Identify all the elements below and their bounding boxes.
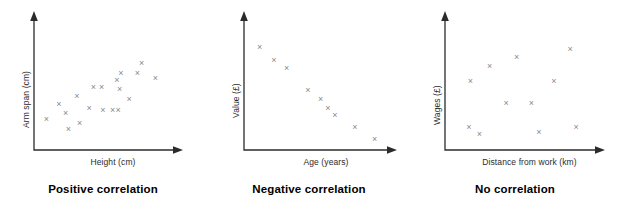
data-points-none: ××××××××××× xyxy=(466,44,579,139)
data-point-marker: × xyxy=(536,127,541,137)
data-point-marker: × xyxy=(74,91,79,101)
chart-panel-positive: ××××××××××××××××××× Arm span (cm) Height… xyxy=(0,0,206,209)
x-axis-arrow-icon xyxy=(173,146,183,154)
data-points-negative: ××××××××× xyxy=(257,42,377,144)
plot-svg-none: ××××××××××× xyxy=(412,0,618,180)
axes-positive xyxy=(30,11,183,154)
axes-negative xyxy=(240,11,397,154)
y-axis-arrow-icon xyxy=(240,11,248,21)
data-point-marker: × xyxy=(117,84,122,94)
data-point-marker: × xyxy=(91,82,96,92)
data-point-marker: × xyxy=(99,82,104,92)
data-point-marker: × xyxy=(63,108,68,118)
y-axis-arrow-icon xyxy=(30,11,38,21)
data-point-marker: × xyxy=(551,76,556,86)
x-axis-label-negative: Age (years) xyxy=(256,157,396,167)
data-point-marker: × xyxy=(100,105,105,115)
data-point-marker: × xyxy=(139,58,144,68)
data-point-marker: × xyxy=(127,94,132,104)
data-point-marker: × xyxy=(77,118,82,128)
data-point-marker: × xyxy=(487,61,492,71)
data-point-marker: × xyxy=(66,124,71,134)
data-point-marker: × xyxy=(466,122,471,132)
y-axis-arrow-icon xyxy=(441,11,449,21)
data-point-marker: × xyxy=(468,76,473,86)
data-point-marker: × xyxy=(44,114,49,124)
data-point-marker: × xyxy=(257,42,262,52)
x-axis-arrow-icon xyxy=(387,146,397,154)
axis-lines xyxy=(34,20,176,150)
data-points-positive: ××××××××××××××××××× xyxy=(44,58,158,134)
axes-none xyxy=(441,11,605,154)
caption-none: No correlation xyxy=(412,183,618,195)
data-point-marker: × xyxy=(503,98,508,108)
caption-positive: Positive correlation xyxy=(0,183,206,195)
data-point-marker: × xyxy=(135,68,140,78)
x-axis-arrow-icon xyxy=(595,146,605,154)
data-point-marker: × xyxy=(352,122,357,132)
data-point-marker: × xyxy=(325,103,330,113)
data-point-marker: × xyxy=(153,73,158,83)
data-point-marker: × xyxy=(110,105,115,115)
scatter-correlation-figure: ××××××××××××××××××× Arm span (cm) Height… xyxy=(0,0,618,209)
scatter-plot-none: ××××××××××× xyxy=(412,0,618,180)
data-point-marker: × xyxy=(477,129,482,139)
data-point-marker: × xyxy=(284,63,289,73)
data-point-marker: × xyxy=(514,52,519,62)
data-point-marker: × xyxy=(332,110,337,120)
data-point-marker: × xyxy=(372,134,377,144)
data-point-marker: × xyxy=(305,85,310,95)
y-axis-label-none: Wages (£) xyxy=(432,85,442,125)
axis-lines xyxy=(244,20,390,150)
chart-panel-negative: ××××××××× Value (£) Age (years) Negative… xyxy=(206,0,412,209)
data-point-marker: × xyxy=(573,122,578,132)
data-point-marker: × xyxy=(529,98,534,108)
data-point-marker: × xyxy=(568,44,573,54)
data-point-marker: × xyxy=(318,94,323,104)
x-axis-label-none: Distance from work (km) xyxy=(452,157,607,167)
chart-panel-none: ××××××××××× Wages (£) Distance from work… xyxy=(412,0,618,209)
data-point-marker: × xyxy=(271,55,276,65)
caption-negative: Negative correlation xyxy=(206,183,412,195)
data-point-marker: × xyxy=(116,105,121,115)
data-point-marker: × xyxy=(56,99,61,109)
y-axis-label-negative: Value (£) xyxy=(231,83,241,118)
data-point-marker: × xyxy=(87,103,92,113)
data-point-marker: × xyxy=(118,68,123,78)
y-axis-label-positive: Arm span (cm) xyxy=(21,71,31,128)
x-axis-label-positive: Height (cm) xyxy=(43,157,183,167)
